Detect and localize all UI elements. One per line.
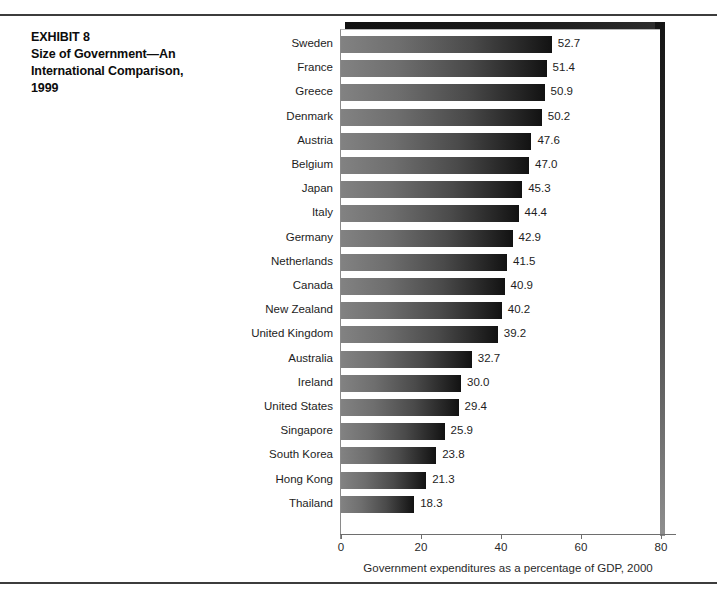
bar-category-label: Hong Kong [275, 473, 333, 485]
bar-category-label: South Korea [269, 448, 333, 460]
page-rule-bottom [0, 582, 717, 584]
bar-row: Hong Kong21.3 [255, 472, 710, 489]
x-axis-tick-label: 20 [415, 541, 428, 553]
bar-row: Denmark50.2 [255, 109, 710, 126]
bar-value-label: 50.2 [548, 110, 570, 122]
bar [341, 133, 531, 150]
x-axis-tick [581, 534, 582, 539]
x-axis-tick-label: 40 [495, 541, 508, 553]
bar [341, 302, 502, 319]
exhibit-page: EXHIBIT 8 Size of Government—An Internat… [0, 0, 717, 590]
bar-value-label: 47.0 [535, 158, 557, 170]
bar [341, 205, 519, 222]
bar-value-label: 30.0 [467, 376, 489, 388]
x-axis-tick [501, 534, 502, 539]
bar [341, 472, 426, 489]
x-axis-line [340, 534, 676, 535]
x-axis-tick [421, 534, 422, 539]
bar-category-label: France [297, 61, 333, 73]
bar [341, 375, 461, 392]
bar-category-label: New Zealand [265, 303, 333, 315]
exhibit-number: EXHIBIT 8 [31, 29, 246, 46]
bar-value-label: 21.3 [432, 473, 454, 485]
bar-row: Japan45.3 [255, 181, 710, 198]
x-axis-tick [661, 534, 662, 539]
x-axis-tick [341, 534, 342, 539]
x-axis-tick-label: 80 [655, 541, 668, 553]
bar-row: New Zealand40.2 [255, 302, 710, 319]
page-rule-top [0, 14, 717, 16]
bar-row: Sweden52.7 [255, 36, 710, 53]
bar [341, 36, 552, 53]
bar-value-label: 39.2 [504, 327, 526, 339]
x-axis-tick-label: 60 [575, 541, 588, 553]
bar-row: Austria47.6 [255, 133, 710, 150]
bar-category-label: Ireland [298, 376, 333, 388]
exhibit-title-line-2: International Comparison, [31, 63, 246, 80]
bar-value-label: 52.7 [558, 37, 580, 49]
bar-row: Greece50.9 [255, 84, 710, 101]
x-axis-title: Government expenditures as a percentage … [340, 562, 676, 574]
bar-row: Ireland30.0 [255, 375, 710, 392]
bar [341, 157, 529, 174]
bar-category-label: Austria [297, 134, 333, 146]
bar [341, 254, 507, 271]
bar-category-label: United States [264, 400, 333, 412]
bar [341, 84, 545, 101]
bar-row: Singapore25.9 [255, 423, 710, 440]
bar-row: Thailand18.3 [255, 496, 710, 513]
bar-row: South Korea23.8 [255, 447, 710, 464]
bar-row: Germany42.9 [255, 230, 710, 247]
bar-category-label: Australia [288, 352, 333, 364]
bar-chart: Sweden52.7France51.4Greece50.9Denmark50.… [255, 22, 710, 582]
bar-value-label: 25.9 [451, 424, 473, 436]
x-axis-tick-label: 0 [338, 541, 344, 553]
bar-category-label: Thailand [289, 497, 333, 509]
bar [341, 230, 513, 247]
bar [341, 423, 445, 440]
bar-value-label: 42.9 [519, 231, 541, 243]
bar-category-label: Germany [286, 231, 333, 243]
bar-category-label: Italy [312, 206, 333, 218]
bar-value-label: 32.7 [478, 352, 500, 364]
bar-value-label: 29.4 [465, 400, 487, 412]
bar-row: Italy44.4 [255, 205, 710, 222]
bar-category-label: Singapore [281, 424, 333, 436]
bar-value-label: 23.8 [442, 448, 464, 460]
bar-category-label: Netherlands [271, 255, 333, 267]
bar-row: Canada40.9 [255, 278, 710, 295]
bar-value-label: 41.5 [513, 255, 535, 267]
bar-row: United Kingdom39.2 [255, 326, 710, 343]
bar-row: Netherlands41.5 [255, 254, 710, 271]
bar [341, 326, 498, 343]
bar [341, 447, 436, 464]
exhibit-caption: EXHIBIT 8 Size of Government—An Internat… [31, 29, 246, 97]
bar [341, 351, 472, 368]
bar-row: Belgium47.0 [255, 157, 710, 174]
bar-value-label: 47.6 [537, 134, 559, 146]
bar-row: France51.4 [255, 60, 710, 77]
bar-category-label: Belgium [291, 158, 333, 170]
bar-value-label: 45.3 [528, 182, 550, 194]
bar [341, 60, 547, 77]
bar-value-label: 18.3 [420, 497, 442, 509]
exhibit-title-line-3: 1999 [31, 80, 246, 97]
bar-row: Australia32.7 [255, 351, 710, 368]
bar-value-label: 50.9 [551, 85, 573, 97]
exhibit-title-line-1: Size of Government—An [31, 46, 246, 63]
bar-value-label: 44.4 [525, 206, 547, 218]
bar-value-label: 51.4 [553, 61, 575, 73]
bar-value-label: 40.2 [508, 303, 530, 315]
bar-category-label: Greece [295, 85, 333, 97]
bar-value-label: 40.9 [511, 279, 533, 291]
bar-category-label: Sweden [291, 37, 333, 49]
bar-category-label: Canada [293, 279, 333, 291]
bar [341, 278, 505, 295]
bar-category-label: Japan [302, 182, 333, 194]
bar-category-label: Denmark [286, 110, 333, 122]
bar [341, 496, 414, 513]
bar-category-label: United Kingdom [251, 327, 333, 339]
bar-row: United States29.4 [255, 399, 710, 416]
bar [341, 181, 522, 198]
bar [341, 109, 542, 126]
